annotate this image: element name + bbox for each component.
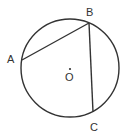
circle-diagram: A B C O — [0, 0, 123, 135]
label-b: B — [86, 6, 93, 18]
chord-bc — [89, 23, 93, 112]
chord-ab — [22, 23, 89, 60]
label-c: C — [90, 121, 98, 133]
label-a: A — [7, 53, 15, 65]
center-dot — [69, 68, 71, 70]
label-o: O — [65, 71, 74, 83]
